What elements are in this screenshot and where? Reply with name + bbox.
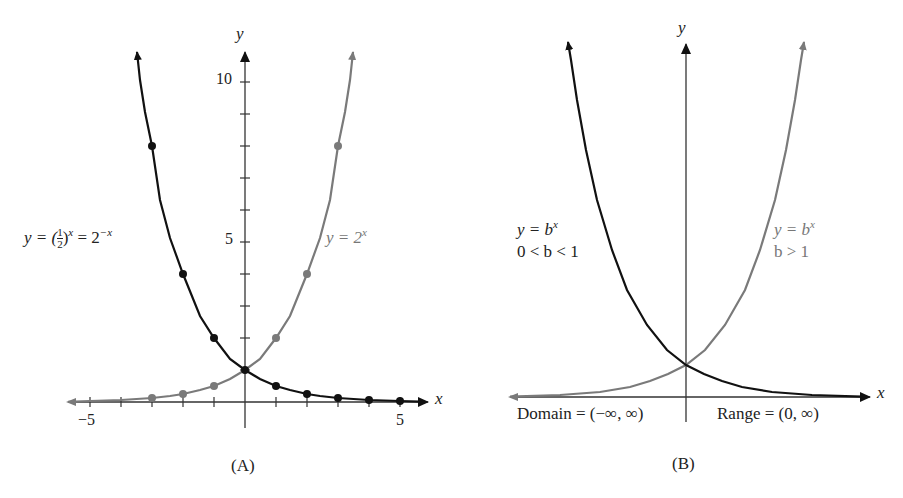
x-axis-label-b: x: [877, 383, 885, 403]
growth-label-b: y = bx b > 1: [774, 213, 815, 263]
caption-a: (A): [231, 456, 255, 476]
panel-a: [66, 52, 428, 428]
label-line1: y = b: [774, 220, 810, 239]
points-decay-a: [148, 142, 404, 405]
label-exponent: x: [362, 226, 367, 238]
label-prefix: y = (: [24, 228, 57, 247]
x-tick-label-neg5: −5: [78, 411, 95, 429]
label-exponent: x: [810, 218, 815, 230]
x-tick-label-5: 5: [396, 411, 404, 429]
label-condition: 0 < b < 1: [517, 241, 579, 263]
curve-decay-b: [568, 42, 862, 397]
decay-label-b: y = bx 0 < b < 1: [517, 213, 579, 263]
label-prefix: y = 2: [326, 228, 362, 247]
caption-b: (B): [672, 454, 695, 474]
label-condition: b > 1: [774, 241, 815, 263]
label-exponent-2: −x: [100, 226, 112, 238]
domain-annotation: Domain = (−∞, ∞): [517, 404, 644, 424]
growth-curve-label-a: y = 2x: [326, 226, 367, 248]
y-axis-label-a: y: [236, 24, 244, 44]
x-axis-label-a: x: [435, 389, 443, 409]
decay-curve-label-a: y = (12)x = 2−x: [24, 226, 112, 250]
label-equals: = 2: [73, 228, 100, 247]
y-axis-label-b: y: [678, 18, 686, 38]
label-exponent: x: [553, 218, 558, 230]
y-tick-label-5: 5: [225, 230, 233, 248]
range-annotation: Range = (0, ∞): [717, 404, 819, 424]
curve-decay-a: [137, 52, 420, 402]
y-tick-label-10: 10: [216, 70, 232, 88]
label-line1: y = b: [517, 220, 553, 239]
